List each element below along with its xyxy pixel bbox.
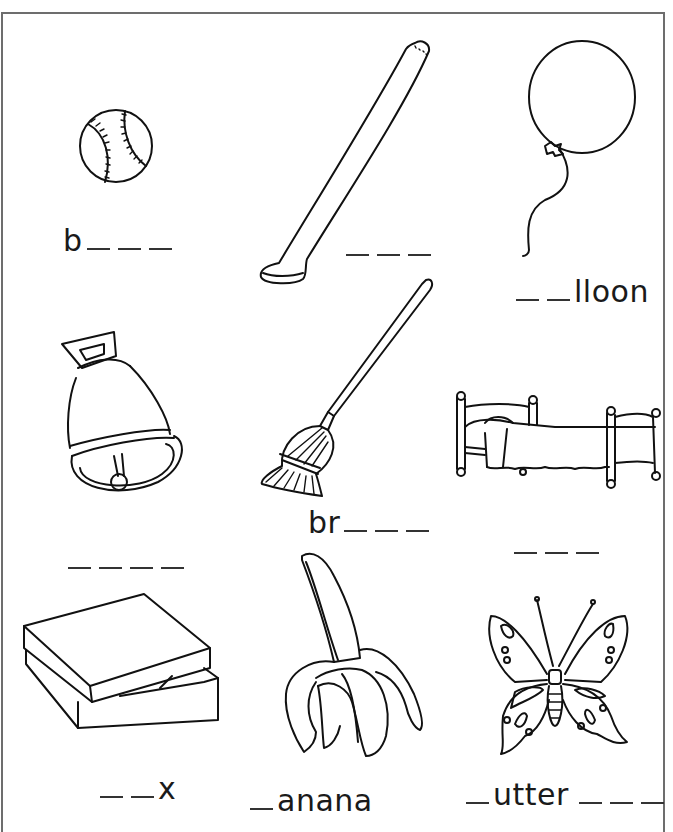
letter-blank[interactable] (466, 802, 489, 804)
letter-blank[interactable] (516, 299, 539, 301)
bell-word-label (64, 545, 188, 575)
letter-blank[interactable] (514, 552, 537, 554)
letter-blank[interactable] (149, 248, 172, 250)
letter-blank[interactable] (406, 530, 429, 532)
box-word-label: x (96, 774, 176, 804)
letter-blank[interactable] (408, 254, 431, 256)
letter-blank[interactable] (610, 802, 633, 804)
letter-blank[interactable] (641, 802, 664, 804)
letter-blank[interactable] (100, 796, 123, 798)
letter-blank[interactable] (250, 808, 273, 810)
box-suffix: x (158, 774, 176, 804)
letter-blank[interactable] (346, 254, 369, 256)
letter-blank[interactable] (576, 552, 599, 554)
letter-blank[interactable] (579, 802, 602, 804)
box-picture (20, 590, 225, 740)
bed-picture (455, 393, 665, 493)
bed-word-label (510, 530, 603, 560)
butterfly-suffix: utter (493, 780, 569, 810)
letter-blank[interactable] (545, 552, 568, 554)
bat-word-label (342, 232, 435, 262)
letter-blank[interactable] (99, 567, 122, 569)
letter-blank[interactable] (118, 248, 141, 250)
ball-prefix: b (63, 226, 83, 256)
balloon-suffix: lloon (574, 277, 649, 307)
letter-blank[interactable] (130, 567, 153, 569)
letter-blank[interactable] (547, 299, 570, 301)
letter-blank[interactable] (161, 567, 184, 569)
baseball-picture (78, 108, 154, 184)
broom-word-label: br (308, 508, 433, 538)
ball-word-label: b (63, 226, 176, 256)
butterfly-word-label: utter (462, 780, 668, 810)
bell-picture (58, 328, 190, 498)
butterfly-picture (485, 596, 635, 756)
banana-word-label: anana (246, 786, 373, 816)
letter-blank[interactable] (344, 530, 367, 532)
broom-prefix: br (308, 508, 340, 538)
letter-blank[interactable] (131, 796, 154, 798)
broom-picture (258, 276, 438, 496)
balloon-word-label: lloon (512, 277, 649, 307)
banana-picture (282, 546, 432, 756)
letter-blank[interactable] (87, 248, 110, 250)
banana-suffix: anana (277, 786, 373, 816)
letter-blank[interactable] (68, 567, 91, 569)
letter-blank[interactable] (377, 254, 400, 256)
balloon-picture (515, 40, 645, 260)
letter-blank[interactable] (375, 530, 398, 532)
